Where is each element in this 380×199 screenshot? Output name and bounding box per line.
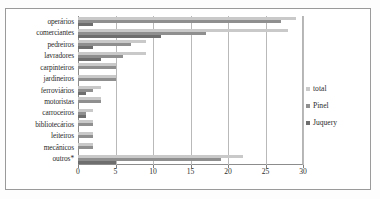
x-axis-tick-label: 30 <box>299 167 307 176</box>
y-axis-label: jardineiros <box>4 74 74 83</box>
legend-item[interactable]: Juquery <box>306 116 366 129</box>
y-axis-label: carpinteiros <box>4 63 74 72</box>
bar-group <box>78 16 303 27</box>
x-axis-tick-label: 10 <box>149 167 157 176</box>
bar-juquery <box>78 35 161 38</box>
x-axis-tick-label: 15 <box>187 167 195 176</box>
x-axis-tick-label: 5 <box>114 167 118 176</box>
bar-pinel <box>78 20 281 23</box>
bar-group <box>78 39 303 50</box>
legend-label: total <box>313 84 327 93</box>
bar-group <box>78 142 303 153</box>
legend-swatch-icon <box>306 104 310 108</box>
y-axis-label: outros* <box>4 154 74 163</box>
legend-label: Juquery <box>313 118 337 127</box>
chart-figure: operárioscomerciantespedreiroslavradores… <box>0 0 380 199</box>
legend-label: Pinel <box>313 101 329 110</box>
bar-group <box>78 96 303 107</box>
bar-pinel <box>78 123 93 126</box>
y-axis-label: pedreiros <box>4 40 74 49</box>
bar-juquery <box>78 115 86 118</box>
bar-pinel <box>78 146 93 149</box>
legend-swatch-icon <box>306 87 310 91</box>
bars-layer <box>78 16 303 165</box>
y-axis-label: operários <box>4 17 74 26</box>
legend-item[interactable]: total <box>306 82 366 95</box>
y-axis-label: motoristas <box>4 97 74 106</box>
gridline <box>303 16 304 165</box>
bar-juquery <box>78 46 93 49</box>
chart-legend: totalPinelJuquery <box>306 82 366 133</box>
legend-item[interactable]: Pinel <box>306 99 366 112</box>
bar-juquery <box>78 92 86 95</box>
y-axis-label: carroceiros <box>4 108 74 117</box>
bar-group <box>78 62 303 73</box>
y-axis-label: comerciantes <box>4 28 74 37</box>
y-axis-label: bibliotecários <box>4 120 74 129</box>
bar-pinel <box>78 78 116 81</box>
bar-group <box>78 154 303 165</box>
bar-group <box>78 27 303 38</box>
x-axis-tick-labels: 051015202530 <box>78 167 303 181</box>
y-axis-label: mecânicos <box>4 143 74 152</box>
bar-group <box>78 50 303 61</box>
bar-group <box>78 85 303 96</box>
x-axis-tick-label: 20 <box>224 167 232 176</box>
bar-juquery <box>78 23 93 26</box>
bar-pinel <box>78 135 93 138</box>
bar-pinel <box>78 100 101 103</box>
bar-group <box>78 131 303 142</box>
y-axis-category-labels: operárioscomerciantespedreiroslavradores… <box>6 16 76 165</box>
bar-pinel <box>78 66 116 69</box>
y-axis-label: leiteiros <box>4 131 74 140</box>
x-axis-tick-label: 0 <box>76 167 80 176</box>
bar-juquery <box>78 58 101 61</box>
x-axis-tick-label: 25 <box>262 167 270 176</box>
bar-group <box>78 108 303 119</box>
y-axis-label: lavradores <box>4 51 74 60</box>
legend-swatch-icon <box>306 121 310 125</box>
y-axis-label: ferroviários <box>4 86 74 95</box>
bar-group <box>78 73 303 84</box>
bar-juquery <box>78 161 116 164</box>
bar-group <box>78 119 303 130</box>
